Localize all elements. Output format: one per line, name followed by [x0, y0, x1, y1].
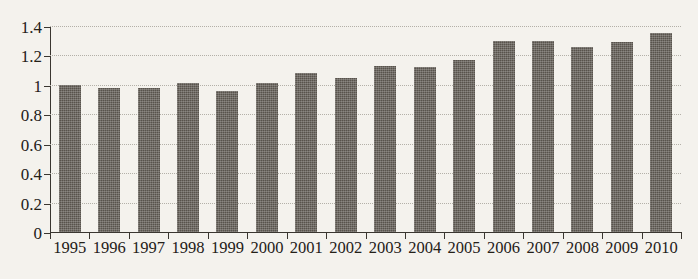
x-tick-mark	[523, 232, 524, 239]
x-tick-label-2008: 2008	[566, 240, 599, 257]
x-tick-mark	[168, 232, 169, 239]
y-tick-mark	[44, 86, 50, 87]
y-tick-label: 1.2	[21, 48, 42, 65]
x-tick-mark	[642, 232, 643, 239]
bar-1998	[177, 83, 199, 232]
x-tick-label-2003: 2003	[369, 240, 402, 257]
x-tick-mark	[366, 232, 367, 239]
x-tick-label-2007: 2007	[526, 240, 559, 257]
bar-2003	[374, 66, 396, 232]
x-tick-label-2005: 2005	[448, 240, 481, 257]
x-tick-mark	[326, 232, 327, 239]
x-tick-label-1998: 1998	[172, 240, 205, 257]
y-tick-mark	[44, 27, 50, 28]
x-tick-mark	[208, 232, 209, 239]
x-tick-label-2000: 2000	[250, 240, 283, 257]
plot-area: 00.20.40.60.811.21.4	[50, 26, 681, 232]
bar-2010	[650, 33, 672, 232]
bar-2006	[493, 41, 515, 232]
x-tick-label-2004: 2004	[408, 240, 441, 257]
y-tick-mark	[44, 115, 50, 116]
y-tick-label: 0.8	[21, 107, 42, 124]
x-tick-mark	[484, 232, 485, 239]
y-tick-label: 0.4	[21, 166, 42, 183]
bar-1997	[138, 88, 160, 232]
x-tick-mark	[50, 232, 51, 239]
x-tick-label-1999: 1999	[211, 240, 244, 257]
y-tick-label: 1	[34, 77, 43, 94]
bar-1995	[59, 85, 81, 232]
x-tick-mark	[287, 232, 288, 239]
bar-2001	[295, 73, 317, 232]
y-tick-label: 0.6	[21, 136, 42, 153]
x-tick-mark	[405, 232, 406, 239]
y-tick-label: 0	[34, 225, 43, 242]
x-tick-label-2009: 2009	[605, 240, 638, 257]
y-tick-mark	[44, 145, 50, 146]
x-tick-label-1996: 1996	[93, 240, 126, 257]
x-tick-mark	[444, 232, 445, 239]
bar-2007	[532, 41, 554, 232]
bar-chart: 00.20.40.60.811.21.4 1995199619971998199…	[0, 0, 698, 279]
x-tick-mark	[129, 232, 130, 239]
y-tick-mark	[44, 174, 50, 175]
y-tick-mark	[44, 56, 50, 57]
y-tick-label: 0.2	[21, 195, 42, 212]
bar-1999	[216, 91, 238, 232]
x-tick-label-2006: 2006	[487, 240, 520, 257]
gridline-1.4: 1.4	[50, 26, 681, 27]
x-tick-mark	[89, 232, 90, 239]
bar-2008	[571, 47, 593, 232]
y-tick-mark	[44, 204, 50, 205]
x-tick-label-2010: 2010	[645, 240, 678, 257]
bar-1996	[98, 88, 120, 232]
y-tick-label: 1.4	[21, 19, 42, 36]
bar-2004	[414, 67, 436, 232]
x-tick-label-2001: 2001	[290, 240, 323, 257]
x-tick-label-1997: 1997	[132, 240, 165, 257]
x-tick-label-2002: 2002	[329, 240, 362, 257]
bar-2005	[453, 60, 475, 232]
x-tick-mark	[681, 232, 682, 239]
x-tick-mark	[563, 232, 564, 239]
x-tick-mark	[602, 232, 603, 239]
bar-2000	[256, 83, 278, 232]
bar-2002	[335, 78, 357, 233]
x-tick-mark	[247, 232, 248, 239]
bar-2009	[611, 42, 633, 232]
x-tick-label-1995: 1995	[53, 240, 86, 257]
